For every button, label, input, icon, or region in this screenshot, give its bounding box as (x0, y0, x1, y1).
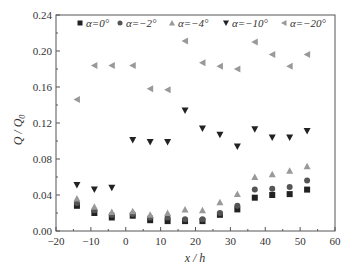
triangle-left-marker (286, 63, 293, 70)
triangle-left-marker (304, 51, 311, 58)
series-triangle-left (73, 38, 310, 104)
legend-item: α=−10° (223, 17, 269, 29)
legend: α=0°α=−2°α=−4°α=−10°α=−20° (78, 17, 327, 29)
square-marker (252, 195, 258, 201)
legend-label: α=−4° (178, 17, 209, 29)
series-triangle-down (73, 107, 310, 193)
x-axis-title: x / h (184, 251, 206, 265)
triangle-down-marker (108, 185, 115, 192)
circle-marker (304, 178, 310, 184)
y-tick-label: 0.12 (33, 117, 52, 129)
y-tick-label: 0.08 (33, 153, 53, 165)
square-marker (287, 191, 293, 197)
triangle-up-marker (169, 20, 175, 26)
x-tick-label: 0 (123, 235, 129, 247)
triangle-left-marker (147, 85, 154, 92)
triangle-left-marker (182, 38, 189, 45)
triangle-down-marker (251, 126, 258, 133)
x-tick-label: 60 (330, 235, 342, 247)
y-tick-label: 0.20 (33, 45, 53, 57)
triangle-left-marker (269, 51, 276, 58)
circle-marker (182, 216, 188, 222)
scatter-chart: 0.000.040.080.120.160.200.24 −20−1001020… (0, 0, 355, 271)
legend-label: α=−20° (290, 17, 327, 29)
legend-label: α=0° (86, 17, 110, 29)
triangle-down-marker (129, 137, 136, 144)
triangle-left-marker (129, 62, 136, 69)
x-axis: −20−100102030405060 (47, 227, 341, 247)
triangle-up-marker (182, 206, 189, 213)
x-tick-label: 30 (225, 235, 237, 247)
y-tick-label: 0.04 (33, 189, 53, 201)
triangle-up-marker (91, 203, 98, 210)
triangle-left-marker (234, 66, 241, 73)
triangle-down-marker (304, 128, 311, 135)
circle-marker (118, 21, 123, 26)
triangle-up-marker (147, 211, 154, 218)
legend-item: α=−2° (118, 17, 158, 29)
legend-item: α=−20° (281, 17, 327, 29)
triangle-left-marker (164, 86, 171, 93)
triangle-left-marker (199, 59, 206, 66)
triangle-down-marker (199, 125, 206, 131)
triangle-left-marker (281, 20, 287, 26)
triangle-left-marker (216, 63, 223, 70)
data-points (73, 38, 310, 225)
triangle-up-marker (73, 195, 80, 202)
legend-label: α=−10° (232, 17, 269, 29)
triangle-left-marker (73, 96, 80, 103)
triangle-down-marker (147, 139, 154, 146)
legend-label: α=−2° (126, 17, 157, 29)
triangle-down-marker (73, 182, 80, 189)
triangle-down-marker (223, 21, 229, 27)
triangle-up-marker (251, 174, 258, 181)
triangle-left-marker (108, 62, 115, 69)
triangle-up-marker (199, 207, 206, 214)
circle-marker (252, 187, 258, 193)
triangle-up-marker (108, 209, 115, 216)
y-tick-label: 0.16 (33, 81, 53, 93)
triangle-up-marker (286, 167, 293, 174)
legend-item: α=0° (78, 17, 110, 29)
x-tick-label: 20 (190, 235, 202, 247)
x-tick-label: −10 (82, 235, 100, 247)
triangle-up-marker (304, 163, 311, 170)
triangle-down-marker (216, 132, 223, 139)
circle-marker (287, 184, 293, 190)
y-axis-title: Q / Q0 (11, 115, 27, 146)
square-marker (304, 187, 310, 193)
triangle-down-marker (182, 107, 189, 114)
x-tick-label: 50 (295, 235, 307, 247)
triangle-up-marker (234, 191, 241, 198)
triangle-left-marker (91, 62, 98, 69)
svg-text:Q / Q0: Q / Q0 (11, 115, 27, 146)
series-circle (74, 178, 310, 223)
circle-marker (199, 216, 205, 222)
square-marker (269, 192, 275, 198)
triangle-down-marker (269, 134, 276, 141)
triangle-up-marker (164, 210, 171, 217)
triangle-down-marker (91, 187, 98, 194)
plot-area (56, 15, 335, 231)
circle-marker (217, 210, 223, 216)
circle-marker (234, 203, 240, 209)
x-tick-label: 10 (155, 235, 167, 247)
series-square (74, 187, 310, 225)
triangle-left-marker (251, 39, 258, 46)
triangle-down-marker (286, 134, 293, 141)
triangle-down-marker (164, 139, 171, 146)
legend-item: α=−4° (169, 17, 209, 29)
x-tick-label: 40 (260, 235, 272, 247)
triangle-down-marker (234, 143, 241, 150)
y-tick-label: 0.24 (33, 9, 53, 21)
square-marker (78, 21, 83, 26)
x-tick-label: −20 (47, 235, 65, 247)
series-triangle-up (73, 163, 310, 218)
circle-marker (269, 186, 275, 192)
triangle-up-marker (216, 199, 223, 206)
triangle-up-marker (269, 171, 276, 178)
triangle-up-marker (129, 208, 136, 215)
